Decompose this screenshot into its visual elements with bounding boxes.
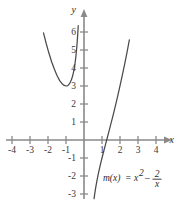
equation-fraction-denominator: x [154,179,160,189]
y-tick-label-6: 6 [71,27,76,37]
equation-lhs: m(x) [103,173,120,184]
y-tick-label-2: 2 [71,99,76,109]
plot-background [0,0,177,209]
y-tick-label-3: 3 [71,81,76,91]
y-tick-label-neg2: -2 [68,171,76,181]
x-axis-label: x [169,134,175,145]
equation-term1-exponent: 2 [139,168,144,178]
plot-svg: -4 -3 -2 -1 1 2 3 4 6 5 4 3 2 1 -1 -2 -3… [0,0,177,209]
y-axis-label: y [71,4,77,15]
equation-fraction-numerator: 2 [155,169,160,179]
x-tick-label-2: 2 [118,145,123,155]
x-tick-label-neg3: -3 [26,145,34,155]
x-tick-label-4: 4 [154,145,159,155]
x-tick-label-neg2: -2 [44,145,52,155]
x-tick-label-3: 3 [136,145,141,155]
x-tick-label-neg4: -4 [8,145,16,155]
equation-minus: – [144,173,150,183]
graph-figure: -4 -3 -2 -1 1 2 3 4 6 5 4 3 2 1 -1 -2 -3… [0,0,177,209]
y-tick-label-neg1: -1 [68,153,76,163]
y-tick-label-1: 1 [71,117,76,127]
equation-equals: = [125,173,131,183]
y-tick-label-neg3: -3 [68,189,76,199]
y-tick-label-5: 5 [71,45,76,55]
